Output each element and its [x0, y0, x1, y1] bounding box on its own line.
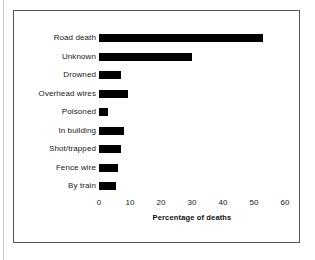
x-tick-label: 10	[126, 197, 135, 209]
bar-track	[99, 29, 299, 47]
x-axis-title: Percentage of deaths	[99, 213, 285, 222]
bar	[99, 34, 263, 42]
bar-row: In building	[14, 122, 299, 140]
x-axis-tick-labels: 0102030405060	[99, 197, 299, 213]
bar-category-label: Drowned	[14, 66, 96, 84]
bar-track	[99, 85, 299, 103]
x-tick-label: 0	[97, 197, 101, 209]
bar-track	[99, 177, 299, 195]
bar-row: Shot/trapped	[14, 140, 299, 158]
x-tick-label: 30	[188, 197, 197, 209]
bar	[99, 164, 118, 172]
bar-category-label: In building	[14, 122, 96, 140]
page-gutter-line	[3, 0, 4, 260]
bar-row: Overhead wires	[14, 85, 299, 103]
x-tick-label: 20	[157, 197, 166, 209]
x-tick-label: 60	[281, 197, 290, 209]
bar	[99, 145, 121, 153]
bar-track	[99, 103, 299, 121]
bar-track	[99, 140, 299, 158]
bar-category-label: By train	[14, 177, 96, 195]
bar-row: Road death	[14, 29, 299, 47]
bar	[99, 127, 124, 135]
bar-category-label: Unknown	[14, 48, 96, 66]
bar-category-label: Poisoned	[14, 103, 96, 121]
bar-row: By train	[14, 177, 299, 195]
bar	[99, 182, 116, 190]
bar-row: Fence wire	[14, 159, 299, 177]
bar	[99, 90, 128, 98]
bar-category-label: Road death	[14, 29, 96, 47]
bar-category-label: Overhead wires	[14, 85, 96, 103]
bar-track	[99, 48, 299, 66]
bar-track	[99, 122, 299, 140]
bar-row: Drowned	[14, 66, 299, 84]
bar	[99, 108, 108, 116]
x-tick-label: 50	[250, 197, 259, 209]
bar	[99, 71, 121, 79]
bar	[99, 53, 192, 61]
bar-track	[99, 66, 299, 84]
bar-track	[99, 159, 299, 177]
bar-row: Unknown	[14, 48, 299, 66]
bar-category-label: Shot/trapped	[14, 140, 96, 158]
chart-figure-frame: Road deathUnknownDrownedOverhead wiresPo…	[13, 10, 300, 243]
x-tick-label: 40	[219, 197, 228, 209]
bar-category-label: Fence wire	[14, 159, 96, 177]
bar-row: Poisoned	[14, 103, 299, 121]
